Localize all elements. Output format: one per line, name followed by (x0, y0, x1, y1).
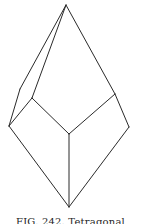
figure-caption: FIG. 242. Tetragonal (0, 216, 141, 224)
crystal-edge (69, 94, 115, 134)
crystal-edge (9, 98, 32, 126)
crystal-edge (115, 94, 129, 127)
crystal-edge (66, 5, 115, 94)
crystal-edge (9, 126, 69, 207)
crystal-edge (32, 98, 69, 134)
crystal-edge (9, 89, 20, 126)
crystal-drawing (0, 0, 141, 224)
crystal-edge (20, 5, 66, 89)
crystal-edge (32, 5, 66, 98)
crystal-edge (69, 127, 129, 207)
caption-container: FIG. 242. Tetragonal (0, 216, 141, 224)
